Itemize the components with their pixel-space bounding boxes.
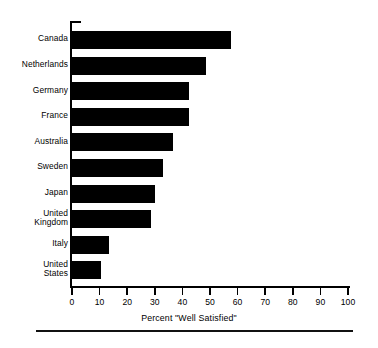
x-axis-title: Percent "Well Satisfied" [0, 313, 378, 323]
x-axis-tick-label: 80 [278, 297, 308, 307]
bar-chart-figure: CanadaNetherlandsGermanyFranceAustraliaS… [0, 0, 378, 348]
x-axis-tick-label: 0 [57, 297, 87, 307]
y-axis-top-cap-icon [70, 21, 81, 23]
x-axis-tick-label: 90 [305, 297, 335, 307]
x-axis-tick-label: 70 [250, 297, 280, 307]
bar [72, 31, 231, 49]
bar [72, 210, 151, 228]
bar [72, 185, 155, 203]
category-label: Australia [4, 137, 68, 146]
category-label: United States [4, 260, 68, 279]
category-label: Netherlands [4, 60, 68, 69]
bar [72, 108, 189, 126]
x-axis-tick-label: 60 [223, 297, 253, 307]
x-axis-tick [71, 288, 73, 295]
x-axis-tick-label: 40 [167, 297, 197, 307]
x-axis-tick-label: 100 [333, 297, 363, 307]
x-axis-tick [126, 288, 128, 295]
x-axis-tick [209, 288, 211, 295]
category-label: Germany [4, 86, 68, 95]
category-label: Italy [4, 239, 68, 248]
category-label: United Kingdom [4, 209, 68, 228]
x-axis-tick [237, 288, 239, 295]
bar [72, 133, 173, 151]
category-label: France [4, 111, 68, 120]
x-axis-tick [347, 288, 349, 295]
bar [72, 82, 189, 100]
x-axis-tick [154, 288, 156, 295]
x-axis-tick [320, 288, 322, 295]
category-label: Japan [4, 188, 68, 197]
bar [72, 57, 206, 75]
x-axis-tick [182, 288, 184, 295]
bar [72, 159, 163, 177]
x-axis-tick-label: 10 [85, 297, 115, 307]
x-axis-tick [264, 288, 266, 295]
x-axis-tick-label: 50 [195, 297, 225, 307]
bottom-rule-divider [36, 330, 353, 332]
x-axis-tick-label: 20 [112, 297, 142, 307]
category-label: Canada [4, 34, 68, 43]
x-axis-tick [99, 288, 101, 295]
plot-area [72, 28, 348, 287]
category-label: Sweden [4, 162, 68, 171]
x-axis-tick-label: 30 [140, 297, 170, 307]
bar [72, 236, 109, 254]
x-axis-tick [292, 288, 294, 295]
bar [72, 261, 101, 279]
